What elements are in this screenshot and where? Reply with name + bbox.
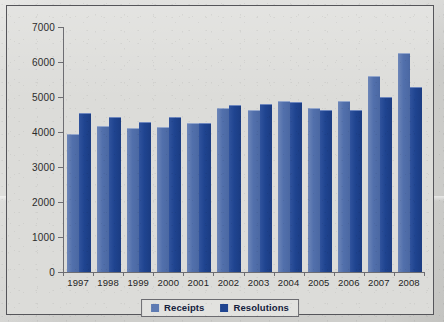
- bar-resolutions: [290, 102, 302, 272]
- y-axis-tick-label: 1000: [32, 232, 55, 243]
- x-axis-tick-label: 2007: [368, 277, 390, 288]
- bar-resolutions: [260, 104, 272, 272]
- x-axis-tick-label: 2000: [158, 277, 180, 288]
- plot-area: 01000200030004000500060007000: [63, 27, 425, 272]
- bar-group: [396, 27, 422, 272]
- bar-receipts: [97, 126, 109, 272]
- y-axis-tick-label: 4000: [32, 127, 55, 138]
- bar-receipts: [278, 101, 290, 272]
- x-axis-tick: [364, 272, 365, 276]
- x-axis-tick: [183, 272, 184, 276]
- y-axis-tick-label: 7000: [32, 22, 55, 33]
- y-axis-tick: [58, 167, 63, 168]
- y-axis-tick: [58, 97, 63, 98]
- bar-receipts: [157, 127, 169, 272]
- scanned-page: 01000200030004000500060007000 1997199819…: [0, 0, 444, 322]
- bar-resolutions: [350, 110, 362, 272]
- x-axis-tick-label: 2001: [188, 277, 210, 288]
- x-axis-tick-label: 1998: [97, 277, 119, 288]
- bar-group: [125, 27, 151, 272]
- x-axis-tick: [424, 272, 425, 276]
- legend-item-receipts: Receipts: [151, 302, 204, 313]
- bar-resolutions: [139, 122, 151, 273]
- bar-group: [276, 27, 302, 272]
- bar-receipts: [217, 108, 229, 272]
- bar-group: [366, 27, 392, 272]
- bar-resolutions: [410, 87, 422, 273]
- x-axis-tick: [63, 272, 64, 276]
- bar-receipts: [368, 76, 380, 272]
- bar-receipts: [248, 110, 260, 272]
- bar-receipts: [338, 101, 350, 273]
- y-axis-tick: [58, 202, 63, 203]
- x-axis-tick: [274, 272, 275, 276]
- x-axis-tick-label: 2006: [338, 277, 360, 288]
- legend-label-receipts: Receipts: [164, 302, 204, 313]
- bar-receipts: [398, 53, 410, 272]
- x-axis-tick: [244, 272, 245, 276]
- y-axis-tick: [58, 132, 63, 133]
- legend-label-resolutions: Resolutions: [233, 302, 288, 313]
- bar-receipts: [67, 134, 79, 272]
- x-axis: 1997199819992000200120022003200420052006…: [63, 272, 425, 294]
- x-axis-tick: [304, 272, 305, 276]
- chart-legend: Receipts Resolutions: [141, 299, 299, 317]
- bar-resolutions: [199, 123, 211, 272]
- chart-frame: 01000200030004000500060007000 1997199819…: [6, 5, 434, 315]
- bar-resolutions: [109, 117, 121, 272]
- bar-receipts: [127, 128, 139, 272]
- x-axis-tick: [123, 272, 124, 276]
- y-axis-tick-label: 5000: [32, 92, 55, 103]
- bar-series-container: [64, 27, 425, 272]
- x-axis-tick-label: 2002: [218, 277, 240, 288]
- bar-group: [246, 27, 272, 272]
- bar-resolutions: [79, 113, 91, 272]
- bar-group: [185, 27, 211, 272]
- y-axis-tick-label: 0: [49, 267, 55, 278]
- legend-swatch-receipts-icon: [151, 304, 159, 312]
- bar-group: [65, 27, 91, 272]
- y-axis-tick: [58, 62, 63, 63]
- bar-resolutions: [320, 110, 332, 272]
- y-axis-tick-label: 2000: [32, 197, 55, 208]
- y-axis-tick: [58, 27, 63, 28]
- bar-resolutions: [380, 97, 392, 272]
- x-axis-tick-label: 1997: [67, 277, 89, 288]
- bar-group: [336, 27, 362, 272]
- x-axis-tick: [334, 272, 335, 276]
- bar-group: [215, 27, 241, 272]
- x-axis-tick-label: 2008: [398, 277, 420, 288]
- legend-item-resolutions: Resolutions: [220, 302, 288, 313]
- bar-group: [155, 27, 181, 272]
- y-axis-tick: [58, 237, 63, 238]
- x-axis-tick: [93, 272, 94, 276]
- bar-resolutions: [229, 105, 241, 272]
- x-axis-tick: [213, 272, 214, 276]
- bar-group: [306, 27, 332, 272]
- x-axis-tick-label: 1999: [127, 277, 149, 288]
- legend-swatch-resolutions-icon: [220, 304, 228, 312]
- bar-receipts: [308, 108, 320, 272]
- x-axis-tick: [394, 272, 395, 276]
- bar-resolutions: [169, 117, 181, 272]
- x-axis-tick-label: 2004: [278, 277, 300, 288]
- bar-group: [95, 27, 121, 272]
- x-axis-tick-label: 2003: [248, 277, 270, 288]
- y-axis-tick-label: 6000: [32, 57, 55, 68]
- bar-receipts: [187, 123, 199, 272]
- x-axis-tick-label: 2005: [308, 277, 330, 288]
- y-axis-tick-label: 3000: [32, 162, 55, 173]
- x-axis-tick: [153, 272, 154, 276]
